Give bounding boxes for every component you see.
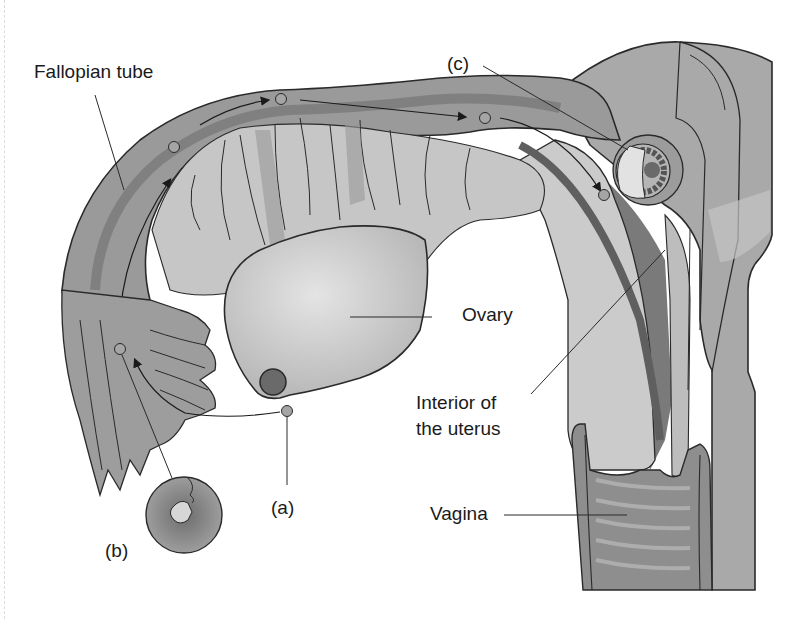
zygote-1 [169,142,180,153]
label-fallopian-tube: Fallopian tube [34,60,153,83]
ovulating-follicle [260,369,286,395]
zygote-4 [599,190,610,201]
label-c: (c) [447,52,469,75]
label-b: (b) [105,539,128,562]
blastocyst [613,135,683,205]
label-ovary: Ovary [462,303,513,326]
ovum-fimbria [115,344,126,355]
ovum-released [282,406,293,417]
label-interior-uterus-line2: the uterus [416,417,501,440]
reproductive-tract-diagram [0,0,796,619]
label-a: (a) [271,496,294,519]
zygote-2 [276,94,287,105]
label-interior-uterus-line1: Interior of [416,391,496,414]
fertilization-inset [146,477,222,553]
label-vagina: Vagina [430,502,488,525]
zygote-3 [480,113,491,124]
fimbriae [62,290,216,495]
